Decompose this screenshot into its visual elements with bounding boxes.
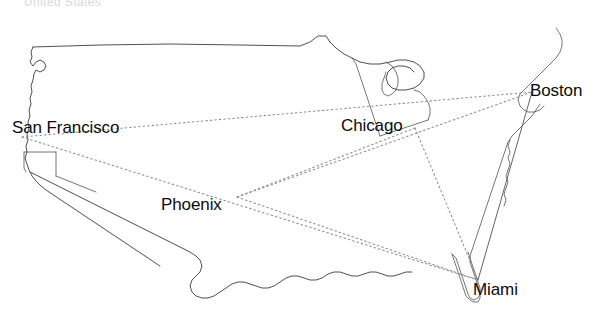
map-diagram-canvas: United States San Francisco [0,0,603,322]
state-outline-detail [352,28,562,302]
us-outline-group [24,36,424,298]
edge-san-francisco-miami [22,137,478,280]
city-label-chicago[interactable]: Chicago [341,117,403,134]
west-coast [25,47,160,266]
us-map-svg [0,0,603,322]
city-label-phoenix[interactable]: Phoenix [161,196,222,213]
lower-border-detail [24,152,96,192]
edge-boston-miami [478,92,532,280]
city-label-miami[interactable]: Miami [473,281,518,298]
northern-border [33,36,424,90]
edge-phoenix-miami [237,197,478,280]
atlantic-coast-detail [452,104,540,302]
edge-phoenix-boston [237,92,532,197]
mexico-border-and-gulf [30,172,412,298]
edge-chicago-miami [415,128,478,280]
edge-chicago-phoenix [237,128,415,197]
city-label-boston[interactable]: Boston [530,82,582,99]
city-label-san-francisco[interactable]: San Francisco [12,119,119,136]
